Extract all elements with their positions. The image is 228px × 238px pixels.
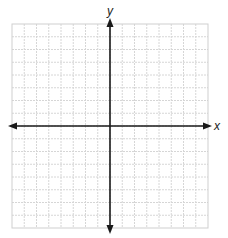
- y-axis-label: y: [106, 4, 114, 18]
- y-axis-down-arrow-icon: [107, 225, 114, 234]
- x-axis-label: x: [213, 119, 221, 133]
- coordinate-plane: x y: [0, 0, 228, 238]
- axes: [8, 18, 212, 234]
- y-axis-up-arrow-icon: [107, 18, 114, 27]
